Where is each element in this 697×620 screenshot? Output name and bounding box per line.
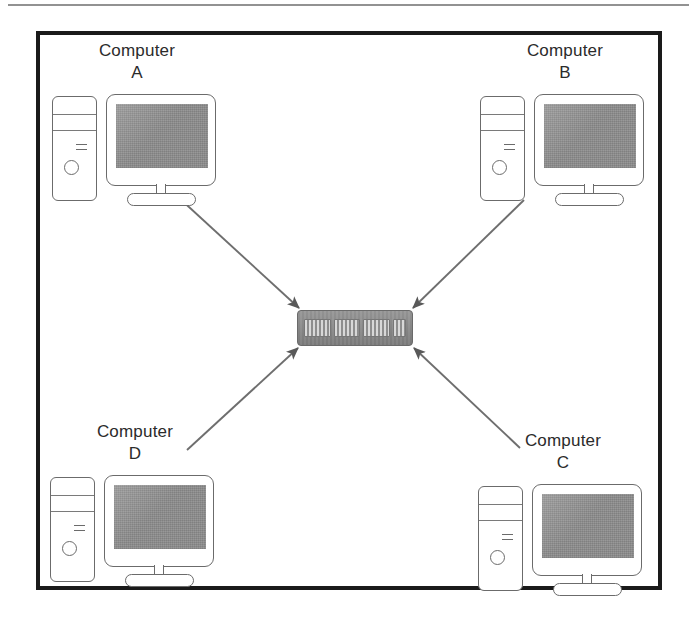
computer-icon-b xyxy=(470,88,660,206)
monitor-base xyxy=(127,193,196,206)
tower-drive-bay-icon xyxy=(51,495,94,496)
node-computer-c-label: Computer C xyxy=(468,430,658,474)
computer-icon-d xyxy=(40,469,230,587)
tower-drive-bay-icon xyxy=(479,504,522,505)
tower-icon xyxy=(480,96,525,201)
network-switch-icon[interactable] xyxy=(297,310,413,346)
tower-icon xyxy=(50,477,95,582)
power-button-icon xyxy=(490,550,505,565)
node-computer-a-label: Computer A xyxy=(42,40,232,84)
monitor-bezel xyxy=(534,94,644,186)
tower-vent-icon xyxy=(76,149,87,150)
computer-icon-c xyxy=(468,478,658,596)
power-button-icon xyxy=(62,541,77,556)
tower-drive-bay-icon xyxy=(53,114,96,115)
monitor-bezel xyxy=(106,94,216,186)
monitor-screen xyxy=(116,104,208,168)
computer-icon-a xyxy=(42,88,232,206)
monitor-screen xyxy=(544,104,636,168)
tower-vent-icon xyxy=(74,530,85,531)
monitor-base xyxy=(553,583,622,596)
monitor-icon xyxy=(534,94,644,186)
tower-drive-bay-icon xyxy=(479,520,522,521)
connection-b-to-switch xyxy=(413,200,524,308)
switch-port-block xyxy=(363,319,390,337)
monitor-screen xyxy=(114,485,206,549)
monitor-screen xyxy=(542,494,634,558)
monitor-icon xyxy=(104,475,214,567)
tower-vent-icon xyxy=(502,534,513,535)
tower-vent-icon xyxy=(504,144,515,145)
connection-a-to-switch xyxy=(177,196,299,308)
tower-icon xyxy=(478,486,523,591)
monitor-base xyxy=(555,193,624,206)
tower-drive-bay-icon xyxy=(51,511,94,512)
tower-drive-bay-icon xyxy=(53,130,96,131)
node-computer-b[interactable]: Computer B xyxy=(470,40,660,206)
monitor-bezel xyxy=(104,475,214,567)
node-computer-b-label: Computer B xyxy=(470,40,660,84)
switch-port-block xyxy=(393,319,406,337)
network-topology-diagram: Computer A Computer B xyxy=(0,0,697,620)
tower-drive-bay-icon xyxy=(481,130,524,131)
tower-icon xyxy=(52,96,97,201)
monitor-base xyxy=(125,574,194,587)
monitor-bezel xyxy=(532,484,642,576)
tower-vent-icon xyxy=(504,149,515,150)
node-computer-c[interactable]: Computer C xyxy=(468,430,658,596)
switch-port-block xyxy=(304,319,331,337)
tower-vent-icon xyxy=(74,525,85,526)
tower-vent-icon xyxy=(76,144,87,145)
tower-vent-icon xyxy=(502,539,513,540)
monitor-icon xyxy=(106,94,216,186)
switch-port-block xyxy=(334,319,361,337)
tower-drive-bay-icon xyxy=(481,114,524,115)
node-computer-a[interactable]: Computer A xyxy=(42,40,232,206)
power-button-icon xyxy=(492,160,507,175)
node-computer-d[interactable]: Computer D xyxy=(40,421,230,587)
monitor-icon xyxy=(532,484,642,576)
power-button-icon xyxy=(64,160,79,175)
node-computer-d-label: Computer D xyxy=(40,421,230,465)
